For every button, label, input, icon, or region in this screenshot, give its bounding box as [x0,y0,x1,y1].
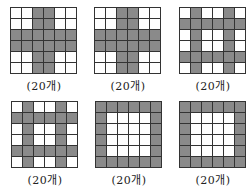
shaded-cell [56,113,67,124]
shaded-cell [202,157,213,168]
empty-cell [95,52,106,63]
shaded-cell [44,19,55,30]
empty-cell [139,63,150,74]
empty-cell [191,124,202,135]
shaded-cell [128,52,139,63]
count-label: (20개) [11,171,79,187]
shaded-cell [151,102,162,113]
empty-cell [66,8,77,19]
figure-5: (20개) [95,101,163,187]
empty-cell [180,63,191,74]
shaded-cell [150,41,161,52]
grid [179,7,246,74]
empty-cell [45,124,56,135]
shaded-cell [118,157,129,168]
figure-4: (20개) [11,101,79,187]
shaded-cell [34,146,45,157]
shaded-cell [191,41,202,52]
empty-cell [34,135,45,146]
empty-cell [180,41,191,52]
empty-cell [235,63,246,74]
empty-cell [202,146,213,157]
shaded-cell [180,124,191,135]
shaded-cell [106,41,117,52]
empty-cell [55,52,66,63]
empty-cell [224,113,235,124]
shaded-cell [23,124,34,135]
shaded-cell [34,113,45,124]
empty-cell [139,52,150,63]
empty-cell [22,19,33,30]
empty-cell [55,8,66,19]
shaded-cell [129,157,140,168]
shaded-cell [96,135,107,146]
shaded-cell [118,102,129,113]
empty-cell [95,19,106,30]
shaded-cell [202,102,213,113]
empty-cell [235,30,246,41]
shaded-cell [191,102,202,113]
empty-cell [140,124,151,135]
count-label: (20개) [94,77,162,93]
shaded-cell [224,19,235,30]
empty-cell [150,52,161,63]
shaded-cell [140,157,151,168]
empty-cell [107,124,118,135]
shaded-cell [44,41,55,52]
empty-cell [67,124,78,135]
shaded-cell [22,30,33,41]
shaded-cell [56,135,67,146]
shaded-cell [23,157,34,168]
shaded-cell [33,41,44,52]
shaded-cell [191,157,202,168]
shaded-cell [128,41,139,52]
grid [10,7,77,74]
empty-cell [139,8,150,19]
shaded-cell [191,63,202,74]
shaded-cell [191,19,202,30]
empty-cell [67,135,78,146]
shaded-cell [96,124,107,135]
empty-cell [191,135,202,146]
shaded-cell [180,102,191,113]
shaded-cell [224,52,235,63]
shaded-cell [95,41,106,52]
empty-cell [12,135,23,146]
shaded-cell [67,113,78,124]
shaded-cell [235,102,246,113]
shaded-cell [22,41,33,52]
empty-cell [224,135,235,146]
empty-cell [34,102,45,113]
empty-cell [202,30,213,41]
empty-cell [67,157,78,168]
shaded-cell [202,52,213,63]
empty-cell [140,113,151,124]
shaded-cell [117,8,128,19]
shaded-cell [235,135,246,146]
shaded-cell [44,52,55,63]
shaded-cell [107,102,118,113]
shaded-cell [235,52,246,63]
grid [94,7,161,74]
shaded-cell [117,63,128,74]
empty-cell [118,146,129,157]
shaded-cell [128,30,139,41]
shaded-cell [23,146,34,157]
empty-cell [106,19,117,30]
empty-cell [202,8,213,19]
shaded-cell [96,157,107,168]
empty-cell [106,8,117,19]
shaded-cell [191,52,202,63]
shaded-cell [151,113,162,124]
figure-2: (20개) [94,7,162,93]
empty-cell [180,30,191,41]
empty-cell [11,19,22,30]
shaded-cell [12,113,23,124]
shaded-cell [151,135,162,146]
shaded-cell [56,102,67,113]
empty-cell [191,113,202,124]
empty-cell [95,63,106,74]
shaded-cell [202,19,213,30]
shaded-cell [180,146,191,157]
empty-cell [34,157,45,168]
